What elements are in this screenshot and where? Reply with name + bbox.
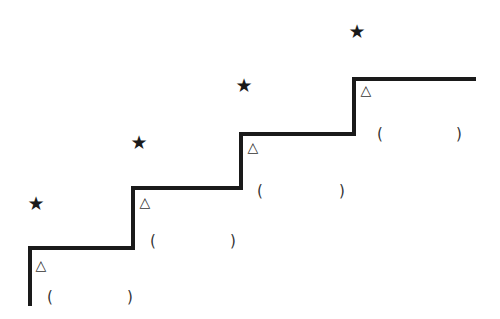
- staircase-line: [0, 0, 500, 319]
- star-icon: ★: [348, 22, 365, 41]
- triangle-icon: △: [361, 83, 372, 97]
- blank-close-paren: ): [230, 234, 236, 249]
- triangle-icon: △: [248, 140, 259, 154]
- blank-close-paren: ): [127, 290, 133, 305]
- blank-open-paren: (: [150, 234, 156, 249]
- star-icon: ★: [27, 194, 44, 213]
- blank-open-paren: (: [377, 127, 383, 142]
- star-icon: ★: [130, 133, 147, 152]
- triangle-icon: △: [140, 195, 151, 209]
- blank-close-paren: ): [456, 127, 462, 142]
- triangle-icon: △: [36, 258, 47, 272]
- star-icon: ★: [235, 76, 252, 95]
- blank-open-paren: (: [47, 290, 53, 305]
- blank-open-paren: (: [257, 184, 263, 199]
- blank-close-paren: ): [339, 184, 345, 199]
